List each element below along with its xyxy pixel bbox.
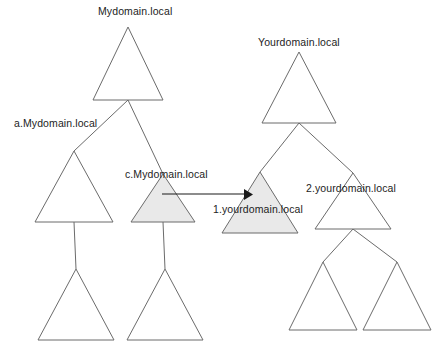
edge-mydomain-root-to-c-mydomain: [128, 100, 163, 174]
label-c-mydomain: c.Mydomain.local: [125, 168, 208, 180]
triangle-c-mydomain-child: [127, 269, 203, 340]
label-one-yourdomain: 1.yourdomain.local: [213, 203, 303, 215]
triangle-yourdomain-root: [262, 52, 336, 123]
edge-two-yourdomain-to-left-child: [323, 229, 353, 262]
label-mydomain-root: Mydomain.local: [98, 5, 172, 17]
edge-yourdomain-root-to-one: [260, 123, 299, 172]
domain-tree-diagram: Mydomain.local a.Mydomain.local c.Mydoma…: [0, 0, 440, 350]
label-yourdomain-root: Yourdomain.local: [258, 36, 340, 48]
triangle-mydomain-root: [93, 27, 163, 100]
triangle-a-mydomain-child: [38, 269, 114, 340]
edge-yourdomain-root-to-two: [299, 123, 353, 173]
triangle-a-mydomain: [35, 151, 113, 222]
edge-a-mydomain-to-child: [74, 222, 76, 269]
triangle-two-yourdomain-left-child: [289, 262, 357, 330]
diagram-canvas: [0, 0, 440, 350]
edge-two-yourdomain-to-right-child: [353, 229, 397, 262]
label-two-yourdomain: 2.yourdomain.local: [306, 182, 396, 194]
label-a-mydomain: a.Mydomain.local: [14, 117, 97, 129]
triangle-c-mydomain: [131, 174, 195, 222]
edge-c-mydomain-to-child: [163, 222, 165, 269]
triangle-two-yourdomain-right-child: [363, 262, 431, 330]
